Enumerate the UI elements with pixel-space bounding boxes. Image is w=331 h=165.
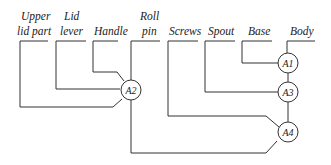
node-a4: A4 bbox=[278, 122, 298, 142]
svg-text:pin: pin bbox=[141, 25, 157, 38]
part-label-lid-lever: Lid lever bbox=[60, 10, 84, 37]
svg-text:Lid: Lid bbox=[63, 10, 80, 22]
svg-text:lid part: lid part bbox=[17, 25, 52, 38]
svg-text:Upper: Upper bbox=[21, 10, 51, 23]
svg-text:A2: A2 bbox=[124, 85, 136, 96]
node-a1: A1 bbox=[278, 53, 298, 73]
connector-a2-to-a4 bbox=[131, 100, 277, 153]
svg-text:A1: A1 bbox=[281, 58, 293, 69]
svg-text:Body: Body bbox=[290, 25, 315, 38]
svg-text:Spout: Spout bbox=[208, 25, 235, 38]
svg-text:A3: A3 bbox=[281, 87, 293, 98]
connector-screws-to-a4 bbox=[168, 41, 279, 127]
svg-text:Base: Base bbox=[248, 25, 270, 37]
node-a3: A3 bbox=[278, 82, 298, 102]
part-label-handle: Handle bbox=[93, 25, 128, 37]
part-label-screws: Screws bbox=[169, 25, 202, 37]
part-label-base: Base bbox=[248, 25, 270, 37]
svg-text:Roll: Roll bbox=[139, 10, 159, 22]
svg-text:Screws: Screws bbox=[169, 25, 202, 37]
part-label-upper-lid-part: Upper lid part bbox=[17, 10, 52, 38]
part-label-spout: Spout bbox=[208, 25, 235, 38]
svg-text:A4: A4 bbox=[281, 127, 293, 138]
connectors-a2 bbox=[20, 41, 131, 107]
svg-text:Handle: Handle bbox=[93, 25, 128, 37]
part-label-body: Body bbox=[290, 25, 315, 38]
node-a2: A2 bbox=[121, 80, 141, 100]
part-label-roll-pin: Roll pin bbox=[139, 10, 159, 38]
svg-text:lever: lever bbox=[60, 25, 84, 37]
assembly-diagram: Upper lid part Lid lever Handle Roll pin… bbox=[0, 0, 331, 165]
